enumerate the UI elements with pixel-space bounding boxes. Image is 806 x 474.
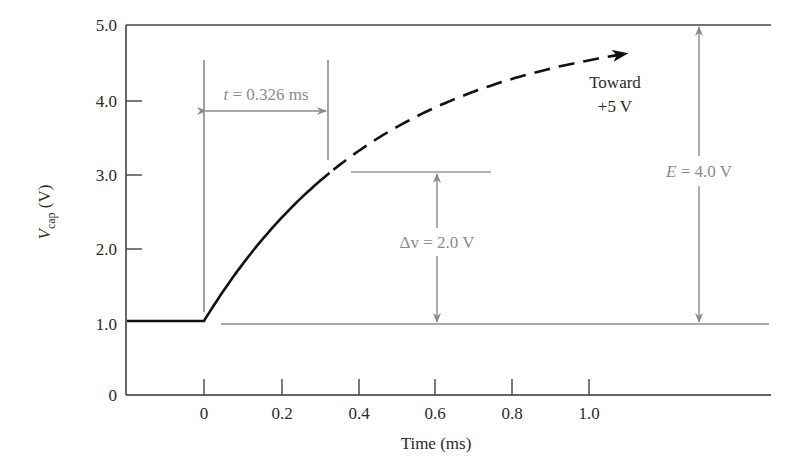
y-axis-title-sub: cap [44,212,58,229]
time-dimension-label: t = 0.326 ms [223,85,308,104]
y-ticks [126,101,142,249]
x-tick-label: 0.4 [348,404,370,423]
toward-label-line1: Toward [589,73,641,92]
x-tick-label: 0.8 [501,404,522,423]
capacitor-charging-chart: 5.0 4.0 3.0 2.0 1.0 0 0 0.2 0.4 0.6 0.8 … [0,0,806,474]
x-ticks [204,379,589,395]
x-axis-title: Time (ms) [401,434,472,453]
y-axis-title: Vcap (V) [35,185,58,240]
axes [126,25,771,395]
y-tick-label: 5.0 [96,16,117,35]
y-tick-label: 4.0 [96,92,117,111]
y-tick-label: 1.0 [96,315,117,334]
y-tick-label: 2.0 [96,240,117,259]
x-tick-label: 0.6 [424,404,445,423]
y-axis-title-unit: (V) [35,185,54,213]
dashed-curve [333,54,627,170]
y-tick-label: 0 [109,386,118,405]
x-tick-labels: 0 0.2 0.4 0.6 0.8 1.0 [200,404,600,423]
delta-v-label: Δv = 2.0 V [400,233,476,252]
x-tick-label: 0 [200,404,209,423]
toward-label-line2: +5 V [598,97,633,116]
svg-text:Vcap (V): Vcap (V) [35,185,58,240]
e-label: E = 4.0 V [665,162,733,181]
x-tick-label: 0.2 [271,404,292,423]
x-tick-label: 1.0 [578,404,599,423]
y-tick-labels: 5.0 4.0 3.0 2.0 1.0 0 [96,16,117,405]
y-tick-label: 3.0 [96,166,117,185]
solid-curve [127,173,330,321]
